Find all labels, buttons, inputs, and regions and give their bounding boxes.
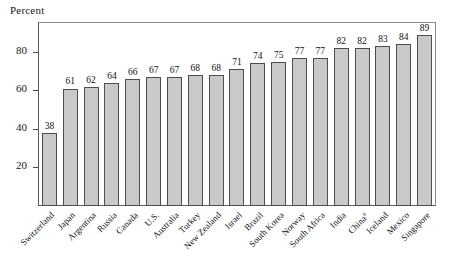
bar-value-label: 77: [306, 46, 334, 56]
y-axis-tick-mark: [33, 52, 38, 53]
bar: [271, 62, 286, 206]
y-axis-tick-label: 20: [3, 159, 27, 171]
bar: [209, 75, 224, 206]
y-axis-tick-mark: [33, 167, 38, 168]
y-axis-tick-label: 40: [3, 121, 27, 133]
bar: [63, 89, 78, 207]
bar: [334, 48, 349, 206]
bar-value-label: 84: [390, 32, 418, 42]
footnote-marker: a: [360, 210, 367, 217]
bar: [146, 77, 161, 206]
y-axis-title: Percent: [10, 4, 44, 16]
bar-value-label: 38: [35, 121, 63, 131]
bar: [313, 58, 328, 206]
y-axis-tick-label: 60: [3, 82, 27, 94]
bar: [229, 69, 244, 206]
bar-chart: Percent 20406080 38Switzerland61Japan62A…: [0, 0, 452, 274]
y-axis-tick-mark: [33, 90, 38, 91]
bar-value-label: 89: [411, 23, 439, 33]
bar: [167, 77, 182, 206]
bar: [42, 133, 57, 206]
bar: [188, 75, 203, 206]
y-axis-tick-label: 80: [3, 44, 27, 56]
bar: [375, 46, 390, 206]
bar: [84, 87, 99, 206]
plot-area: [39, 23, 435, 206]
bar: [250, 63, 265, 206]
bar: [396, 44, 411, 206]
bar: [417, 35, 432, 206]
bar: [104, 83, 119, 206]
bar: [292, 58, 307, 206]
bar: [125, 79, 140, 206]
bar: [355, 48, 370, 206]
